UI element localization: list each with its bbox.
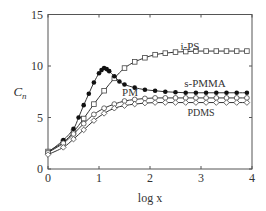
marker-filled-circle	[183, 90, 188, 95]
series-pm	[46, 96, 250, 155]
marker-filled-circle	[87, 92, 92, 97]
y-tick-label: 10	[31, 59, 43, 73]
marker-open-square	[224, 49, 229, 54]
marker-open-diamond	[163, 100, 169, 106]
marker-filled-circle	[224, 90, 229, 95]
marker-open-diamond	[173, 100, 179, 106]
series-group	[45, 49, 250, 158]
marker-open-diamond	[203, 100, 209, 106]
marker-open-diamond	[244, 100, 250, 106]
y-tick-label: 5	[37, 111, 43, 125]
series-line	[48, 98, 247, 153]
marker-filled-circle	[163, 89, 168, 94]
marker-filled-circle	[245, 90, 250, 95]
y-axis-label-subscript: n	[22, 91, 27, 101]
marker-filled-circle	[204, 90, 209, 95]
marker-filled-circle	[214, 90, 219, 95]
x-axis-label: log x	[138, 191, 162, 205]
marker-filled-circle	[92, 80, 97, 85]
y-axis-label-main: C	[13, 84, 22, 99]
series-label-pm: PM	[122, 86, 138, 98]
series-label-spmma: s-PMMA	[184, 77, 226, 89]
marker-open-square	[122, 66, 127, 71]
series-line	[48, 103, 247, 155]
marker-filled-circle	[76, 115, 81, 120]
marker-open-square	[143, 55, 148, 60]
series-ips	[46, 49, 250, 154]
marker-open-square	[204, 49, 209, 54]
marker-open-square	[214, 49, 219, 54]
series-label-ips: i-PS	[181, 40, 200, 52]
marker-open-circle	[102, 106, 107, 111]
chart-container: 01234051015 Cn log x i-PS s-PMMA PM PDMS	[0, 0, 266, 211]
marker-filled-circle	[234, 90, 239, 95]
marker-filled-circle	[81, 103, 86, 108]
marker-open-square	[245, 49, 250, 54]
marker-open-diamond	[214, 100, 220, 106]
marker-open-square	[163, 51, 168, 56]
axis-ticks	[48, 15, 252, 170]
y-tick-label: 0	[37, 162, 43, 176]
marker-open-square	[102, 88, 107, 93]
marker-open-diamond	[112, 105, 118, 111]
marker-open-diamond	[224, 100, 230, 106]
x-tick-label: 2	[147, 171, 153, 185]
marker-open-circle	[81, 121, 86, 126]
marker-open-square	[173, 50, 178, 55]
marker-filled-circle	[194, 90, 199, 95]
marker-open-square	[81, 116, 86, 121]
marker-filled-circle	[107, 69, 112, 74]
y-tick-label: 15	[31, 8, 43, 22]
marker-open-square	[234, 49, 239, 54]
marker-open-square	[92, 102, 97, 107]
marker-open-square	[153, 52, 158, 57]
tick-labels: 01234051015	[31, 8, 255, 186]
marker-open-square	[132, 60, 137, 65]
marker-filled-circle	[173, 90, 178, 95]
x-tick-label: 4	[249, 171, 255, 185]
marker-filled-circle	[143, 87, 148, 92]
marker-open-diamond	[152, 100, 158, 106]
marker-open-circle	[71, 132, 76, 137]
marker-open-diamond	[234, 100, 240, 106]
x-tick-label: 1	[96, 171, 102, 185]
marker-open-diamond	[142, 100, 148, 106]
marker-open-diamond	[193, 100, 199, 106]
marker-filled-circle	[117, 79, 122, 84]
marker-filled-circle	[112, 74, 117, 79]
x-tick-label: 0	[45, 171, 51, 185]
series-label-pdms: PDMS	[187, 107, 214, 118]
x-tick-label: 3	[198, 171, 204, 185]
marker-open-diamond	[183, 100, 189, 106]
marker-open-diamond	[122, 103, 128, 109]
marker-filled-circle	[71, 127, 76, 132]
marker-open-diamond	[61, 145, 67, 151]
marker-open-diamond	[101, 111, 107, 117]
marker-filled-circle	[153, 88, 158, 93]
plot-area-frame	[48, 15, 252, 170]
marker-open-diamond	[132, 101, 138, 107]
y-axis-label: Cn	[13, 84, 27, 101]
marker-open-circle	[92, 112, 97, 117]
